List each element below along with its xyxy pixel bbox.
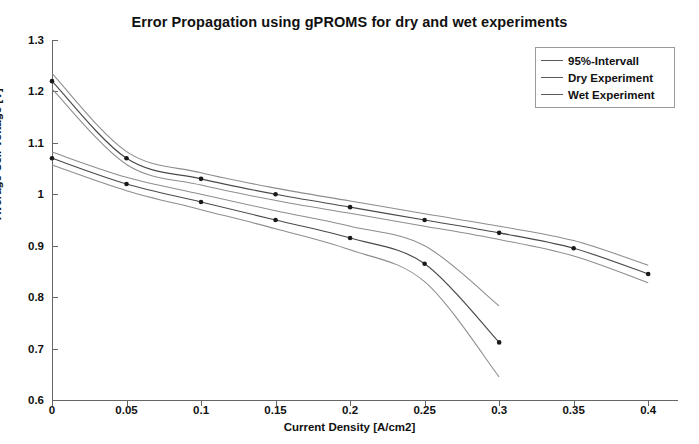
legend-line-icon [541,60,563,61]
legend-item-wet: Wet Experiment [541,86,669,103]
dry-data-point [422,218,427,223]
wet-data-point [422,261,427,266]
dry-data-point [124,156,129,161]
dry-data-point [646,272,651,277]
legend-item-interval: 95%-Intervall [541,52,669,69]
chart-figure: Error Propagation using gPROMS for dry a… [0,0,699,444]
legend-item-dry: Dry Experiment [541,69,669,86]
wet-data-point [50,156,55,161]
dry-interval-lower-curve [52,89,648,283]
wet-data-point [124,182,129,187]
dry-data-point [273,192,278,197]
dry-data-point [199,177,204,182]
legend-line-icon [541,77,563,78]
legend-label: Wet Experiment [568,89,655,101]
dry-experiment-curve [52,81,648,274]
legend-label: Dry Experiment [568,72,653,84]
chart-legend: 95%-Intervall Dry Experiment Wet Experim… [535,47,675,108]
wet-data-point [348,236,353,241]
dry-data-point [497,231,502,236]
dry-data-point [348,205,353,210]
wet-data-point [199,200,204,205]
wet-data-point [273,218,278,223]
dry-data-point [50,79,55,84]
dry-data-point [571,246,576,251]
wet-data-point [497,340,502,345]
legend-line-icon [541,94,563,95]
legend-label: 95%-Intervall [568,55,639,67]
wet-interval-lower-curve [52,165,499,377]
